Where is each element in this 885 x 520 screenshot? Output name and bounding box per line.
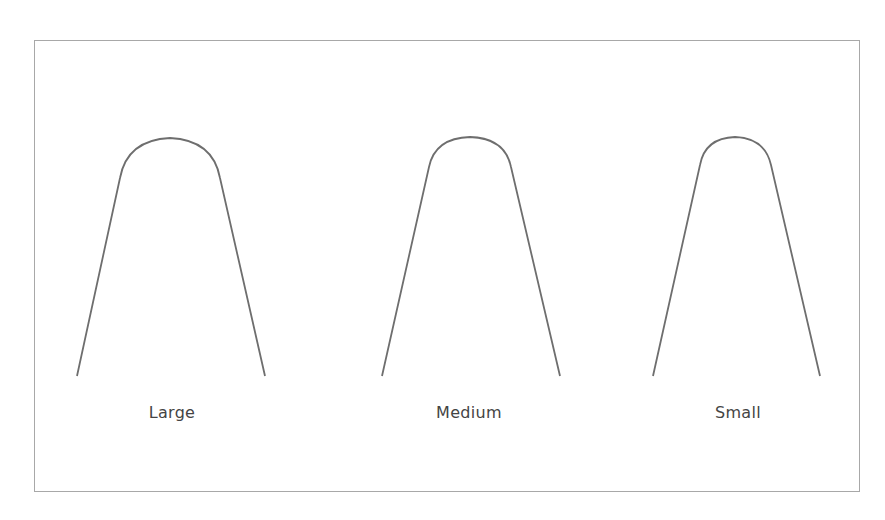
small-label: Small bbox=[715, 403, 761, 422]
medium-label: Medium bbox=[436, 403, 502, 422]
large-label: Large bbox=[149, 403, 196, 422]
medium-arch-shape bbox=[382, 137, 560, 376]
small-arch-shape bbox=[653, 137, 820, 376]
arch-shapes bbox=[0, 0, 885, 520]
large-arch-shape bbox=[77, 138, 265, 376]
